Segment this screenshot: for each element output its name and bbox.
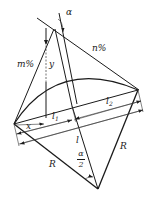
radius-right-label: R: [120, 142, 127, 151]
l-label: l: [76, 136, 79, 145]
arc-geometry-diagram: [0, 0, 154, 209]
m-percent-grade-line: [14, 29, 54, 124]
n-percent-label: n%: [92, 44, 106, 53]
half-alpha-angle-arc: [85, 177, 93, 179]
m-percent-label: m%: [17, 60, 34, 69]
l-dimension-line-back: [20, 110, 143, 144]
x-label: x: [26, 122, 31, 131]
alpha-label: α: [66, 8, 72, 17]
l2-label: l2: [106, 97, 113, 107]
y-label: y: [49, 60, 54, 69]
half-alpha-label: α2: [76, 150, 86, 169]
l1-label: l1: [52, 112, 59, 122]
radius-right: [98, 90, 138, 189]
radius-left-label: R: [49, 160, 56, 169]
